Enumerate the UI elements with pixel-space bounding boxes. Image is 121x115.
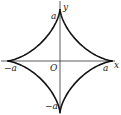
- right-a-label: a: [103, 63, 108, 73]
- top-a-label: a: [51, 11, 56, 21]
- bottom-neg-a-label: −a: [45, 101, 58, 111]
- left-neg-a-label: −a: [4, 63, 17, 73]
- y-axis-label: y: [62, 2, 69, 12]
- x-axis-label: x: [114, 60, 119, 70]
- origin-label: O: [50, 63, 58, 73]
- astroid-diagram: y x O a a −a −a: [0, 0, 121, 115]
